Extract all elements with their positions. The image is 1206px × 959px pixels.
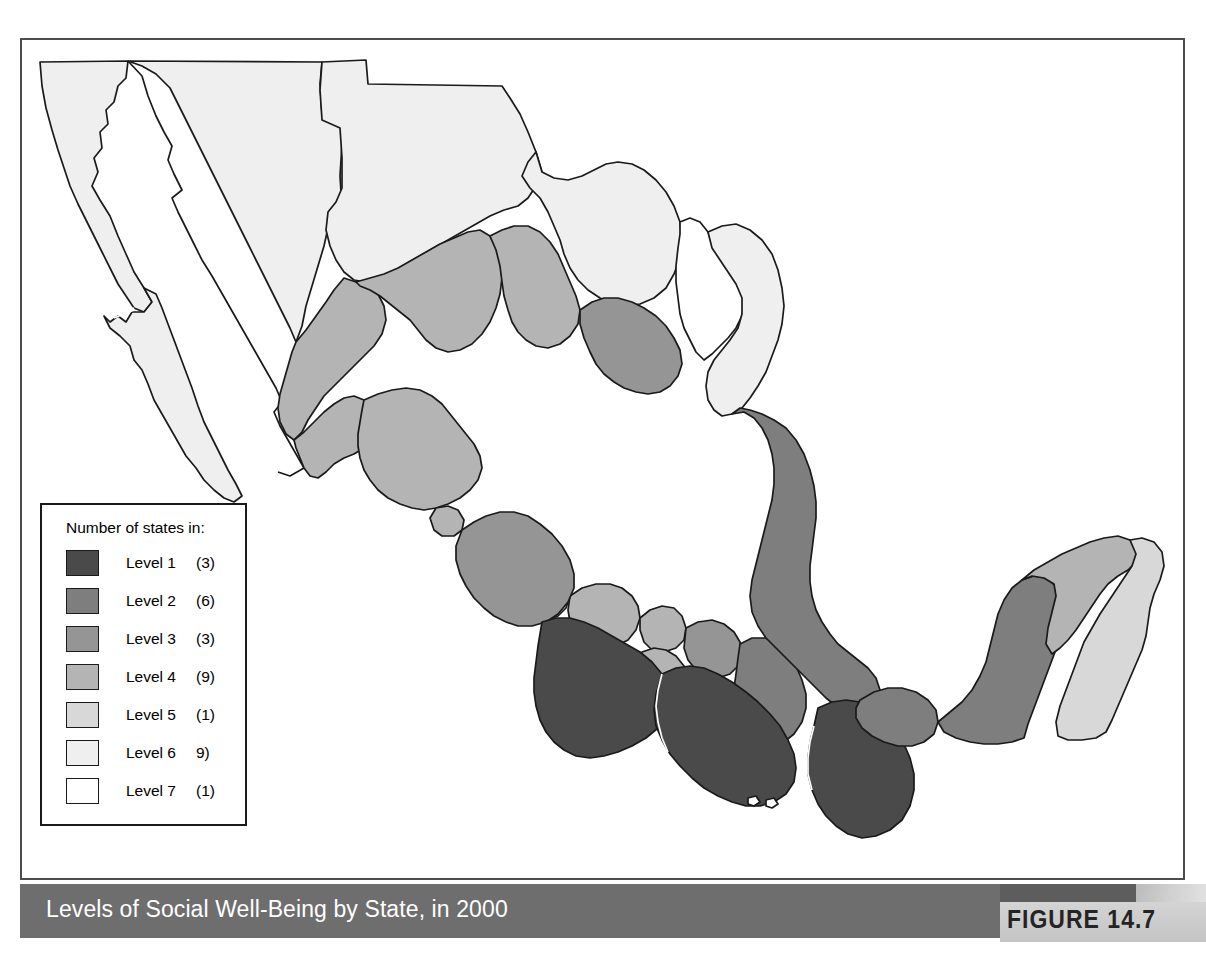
legend-row-level-4: Level 4 (9) <box>66 658 245 696</box>
map-legend: Number of states in: Level 1 (3) Level 2… <box>40 503 247 826</box>
legend-row-level-5: Level 5 (1) <box>66 696 245 734</box>
legend-label-level-6: Level 6 <box>126 744 182 762</box>
legend-swatch-level-6 <box>66 740 99 766</box>
legend-count-level-7: (1) <box>196 782 215 800</box>
legend-count-level-5: (1) <box>196 706 215 724</box>
figure-number-label: FIGURE 14.7 <box>1007 905 1187 934</box>
legend-label-level-7: Level 7 <box>126 782 182 800</box>
legend-row-level-7: Level 7 (1) <box>66 772 245 810</box>
legend-swatch-level-5 <box>66 702 99 728</box>
legend-swatch-level-7 <box>66 778 99 804</box>
legend-swatch-level-4 <box>66 664 99 690</box>
figure-caption: Levels of Social Well-Being by State, in… <box>46 896 508 923</box>
map-frame: .st{stroke:#1a1a1a;stroke-width:1.7;stro… <box>20 38 1185 880</box>
legend-title: Number of states in: <box>66 519 245 537</box>
state-baja-california <box>40 61 152 312</box>
state-colima <box>430 506 464 536</box>
legend-count-level-3: (3) <box>196 630 215 648</box>
legend-count-level-2: (6) <box>196 592 215 610</box>
legend-count-level-4: (9) <box>196 668 215 686</box>
legend-label-level-2: Level 2 <box>126 592 182 610</box>
legend-count-level-6: 9) <box>196 744 210 762</box>
state-michoacan <box>456 512 574 626</box>
legend-row-level-2: Level 2 (6) <box>66 582 245 620</box>
legend-label-level-5: Level 5 <box>126 706 182 724</box>
state-san-luis-potosi <box>580 298 682 394</box>
state-jalisco <box>358 388 482 510</box>
legend-swatch-level-1 <box>66 550 99 576</box>
state-sonora <box>128 61 342 342</box>
legend-swatch-level-3 <box>66 626 99 652</box>
legend-count-level-1: (3) <box>196 554 215 572</box>
state-baja-california-sur <box>104 288 242 502</box>
legend-row-level-6: Level 6 9) <box>66 734 245 772</box>
figure-tab-bar <box>1000 884 1136 902</box>
legend-label-level-3: Level 3 <box>126 630 182 648</box>
figure-container: .st{stroke:#1a1a1a;stroke-width:1.7;stro… <box>0 0 1206 959</box>
legend-label-level-4: Level 4 <box>126 668 182 686</box>
legend-swatch-level-2 <box>66 588 99 614</box>
legend-row-level-1: Level 1 (3) <box>66 544 245 582</box>
state-campeche <box>938 576 1064 744</box>
legend-row-level-3: Level 3 (3) <box>66 620 245 658</box>
legend-label-level-1: Level 1 <box>126 554 182 572</box>
state-queretaro <box>640 606 686 652</box>
